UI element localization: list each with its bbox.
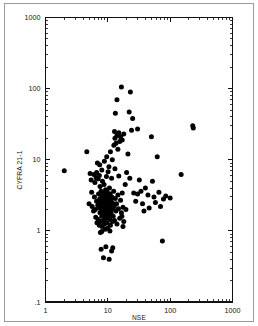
data-point: [103, 244, 108, 249]
data-point: [163, 193, 168, 198]
plot-area: [46, 18, 233, 303]
data-point: [108, 149, 113, 154]
x-axis-ticks: [46, 18, 233, 303]
data-point: [135, 127, 140, 132]
data-point: [125, 152, 130, 157]
x-tick-label: 1: [44, 306, 48, 315]
data-point: [156, 190, 161, 195]
data-point: [115, 147, 120, 152]
plot-frame: [46, 18, 233, 303]
data-point: [120, 137, 125, 142]
data-point: [150, 179, 155, 184]
y-tick-label: 100: [29, 84, 41, 93]
data-point: [109, 176, 114, 181]
data-point: [98, 230, 103, 235]
data-point: [133, 199, 138, 204]
data-point: [97, 162, 102, 167]
data-point: [114, 201, 119, 206]
data-point: [140, 201, 145, 206]
data-point: [87, 201, 92, 206]
data-point: [168, 195, 173, 200]
data-point: [104, 174, 109, 179]
data-point: [116, 206, 121, 211]
data-point: [62, 168, 67, 173]
data-point: [101, 255, 106, 260]
data-point: [145, 192, 150, 197]
data-point: [92, 194, 97, 199]
data-point: [89, 190, 94, 195]
x-tick-label: 1000: [225, 306, 241, 315]
data-point: [158, 204, 163, 209]
data-point: [115, 192, 120, 197]
data-point: [106, 164, 111, 169]
data-point: [123, 182, 128, 187]
data-point: [110, 157, 115, 162]
data-point: [107, 257, 112, 262]
data-point: [119, 85, 124, 90]
x-axis-title: NSE: [132, 314, 147, 321]
data-point: [121, 219, 126, 224]
data-point: [111, 189, 116, 194]
data-point: [99, 167, 104, 172]
data-point: [127, 176, 132, 181]
y-axis-tick-labels: .11101001000: [25, 13, 41, 307]
data-point: [104, 154, 109, 159]
data-point: [151, 194, 156, 199]
data-point: [129, 128, 134, 133]
data-point: [147, 205, 152, 210]
data-point: [153, 200, 158, 205]
data-point: [130, 116, 135, 121]
y-tick-label: 1: [37, 226, 41, 235]
data-point: [155, 154, 160, 159]
y-tick-label: 10: [33, 155, 41, 164]
data-point: [99, 247, 104, 252]
scatter-plot: 1101001000 .11101001000 NSE CYFRA 21-1: [0, 0, 258, 326]
data-point: [124, 170, 129, 175]
data-point: [120, 224, 125, 229]
data-point: [102, 159, 107, 164]
data-point: [102, 182, 107, 187]
data-point: [160, 239, 165, 244]
data-point: [123, 207, 128, 212]
y-axis-ticks: [46, 18, 233, 303]
y-tick-label: 1000: [25, 13, 41, 22]
data-point: [143, 186, 148, 191]
data-point: [191, 125, 196, 130]
data-point: [119, 214, 124, 219]
data-point: [141, 209, 146, 214]
data-point: [179, 172, 184, 177]
data-point: [116, 174, 121, 179]
y-tick-label: .1: [35, 298, 41, 307]
data-point: [107, 228, 112, 233]
data-point: [109, 249, 114, 254]
y-axis-title: CYFRA 21-1: [16, 150, 23, 189]
data-point: [121, 132, 126, 137]
data-point: [112, 166, 117, 171]
data-point: [127, 109, 132, 114]
data-point: [137, 177, 142, 182]
data-point: [107, 186, 112, 191]
data-points-layer: [62, 85, 196, 262]
data-point: [138, 189, 143, 194]
data-point: [112, 129, 117, 134]
data-point: [84, 149, 89, 154]
x-tick-label: 100: [164, 306, 176, 315]
data-point: [106, 169, 111, 174]
data-point: [128, 89, 133, 94]
data-point: [114, 97, 119, 102]
data-point: [94, 170, 99, 175]
figure-container: 1101001000 .11101001000 NSE CYFRA 21-1: [0, 0, 258, 326]
data-point: [114, 221, 119, 226]
data-point: [92, 180, 97, 185]
data-point: [149, 134, 154, 139]
data-point: [118, 198, 123, 203]
data-point: [120, 191, 125, 196]
data-point: [113, 111, 118, 116]
x-tick-label: 10: [104, 306, 112, 315]
